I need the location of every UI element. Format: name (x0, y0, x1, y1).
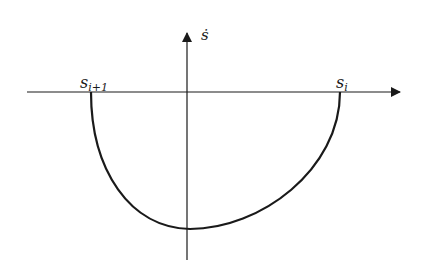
trajectory-curve (91, 92, 340, 229)
label-s-i: si (336, 73, 348, 94)
phase-diagram: ṡ si+1 si (0, 0, 421, 271)
y-axis-label: ṡ (201, 26, 209, 44)
label-s-i-plus-1: si+1 (80, 73, 108, 94)
